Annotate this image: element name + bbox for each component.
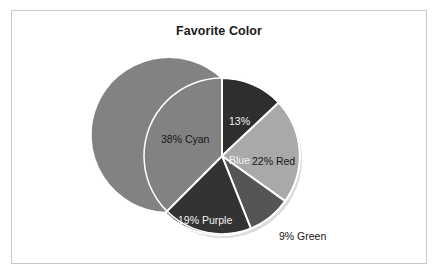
pie-chart: 13% Blue 22% Red 9% Green 19% Purple 38%…	[12, 11, 428, 265]
chart-frame: Favorite Color 13% Blue 22% Red 9%	[11, 10, 427, 264]
pie-label-cyan: 38% Cyan	[161, 133, 209, 146]
pie-label-blue-percent: 13%	[229, 115, 250, 128]
pie-label-green: 9% Green	[279, 230, 326, 243]
pie-label-red: 22% Red	[252, 155, 295, 168]
pie-slices	[91, 57, 300, 235]
pie-label-purple: 19% Purple	[178, 214, 232, 227]
pie-label-blue: 13% Blue	[229, 89, 250, 193]
pie-label-blue-name: Blue	[229, 154, 250, 167]
